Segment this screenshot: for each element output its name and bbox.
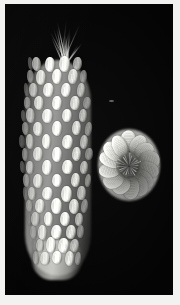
kernel (69, 199, 79, 214)
kernel (79, 161, 88, 174)
kernel (44, 56, 54, 71)
dust-speck-artifact (109, 100, 114, 102)
kernel (62, 109, 72, 122)
photo-field (5, 4, 173, 295)
kernel (85, 121, 94, 135)
kernel (61, 160, 72, 175)
kernel (32, 121, 43, 136)
kernel (46, 237, 56, 253)
kernel (83, 96, 92, 109)
kernel (39, 251, 49, 264)
kernel (52, 147, 62, 163)
kernel (41, 108, 52, 123)
cob-core-shadow (116, 152, 142, 180)
kernel (85, 148, 94, 161)
kernel (42, 160, 52, 175)
kernel (58, 237, 69, 252)
kernel (70, 96, 80, 110)
kernel (36, 69, 46, 84)
kernel (31, 212, 40, 226)
maize-ear-end-view (96, 126, 162, 204)
kernel (52, 96, 62, 110)
kernel (52, 174, 63, 187)
kernel (28, 82, 38, 97)
kernel (61, 186, 72, 202)
kernel (76, 82, 85, 97)
kernel (61, 134, 72, 148)
photographic-plate (0, 0, 180, 305)
kernel (61, 83, 72, 97)
kernel (43, 83, 54, 97)
kernel (32, 147, 42, 161)
kernel (59, 56, 70, 72)
kernel (21, 148, 28, 161)
kernel (74, 213, 83, 226)
maize-ear-side-view (23, 54, 93, 278)
kernel (35, 239, 44, 252)
